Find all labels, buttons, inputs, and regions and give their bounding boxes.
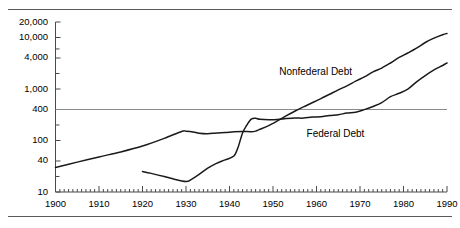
x-tick-label: 1990 <box>427 199 460 209</box>
debt-chart-figure: 20,00010,0004,0001,0004001004010 1900191… <box>0 0 460 228</box>
y-tick-label: 20,000 <box>4 17 48 27</box>
y-tick-label: 10,000 <box>4 32 48 42</box>
series-line-nonfederal-debt <box>56 33 448 167</box>
y-tick-label: 1,000 <box>4 84 48 94</box>
y-tick-label: 4,000 <box>4 52 48 62</box>
x-tick-label: 1940 <box>210 199 250 209</box>
y-tick-label: 40 <box>4 155 48 165</box>
x-tick-label: 1980 <box>384 199 424 209</box>
axis-group <box>56 22 448 192</box>
series-group <box>56 33 448 181</box>
y-tick-label: 100 <box>4 135 48 145</box>
plot-area <box>0 0 460 228</box>
series-line-federal-debt <box>143 63 448 182</box>
series-label-nonfederal-debt: Nonfederal Debt <box>279 66 352 77</box>
x-tick-label: 1910 <box>79 199 119 209</box>
x-tick-label: 1900 <box>36 199 76 209</box>
x-tick-label: 1930 <box>166 199 206 209</box>
x-tick-label: 1950 <box>253 199 293 209</box>
series-label-federal-debt: Federal Debt <box>307 128 365 139</box>
x-tick-label: 1970 <box>340 199 380 209</box>
x-tick-label: 1960 <box>297 199 337 209</box>
x-tick-label: 1920 <box>123 199 163 209</box>
y-tick-label: 10 <box>4 187 48 197</box>
y-tick-label: 400 <box>4 104 48 114</box>
